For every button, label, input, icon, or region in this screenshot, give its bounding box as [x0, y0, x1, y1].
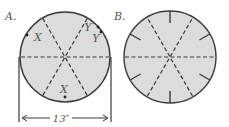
marker-label: X	[59, 83, 69, 96]
marker-dot	[100, 31, 103, 34]
circle-division-diagram: A. XYYX 13″ B.	[0, 0, 229, 127]
panel-a: A. XYYX 13″	[4, 10, 111, 124]
circle-b	[124, 11, 216, 103]
marker-label: X	[33, 31, 43, 44]
marker-dot	[64, 96, 67, 99]
marker-dot	[26, 34, 29, 37]
panel-b-label: B.	[113, 10, 126, 23]
panel-b: B.	[113, 10, 216, 103]
marker-dot	[97, 26, 100, 29]
panel-a-label: A.	[4, 10, 16, 23]
dimension-label: 13″	[53, 113, 70, 124]
